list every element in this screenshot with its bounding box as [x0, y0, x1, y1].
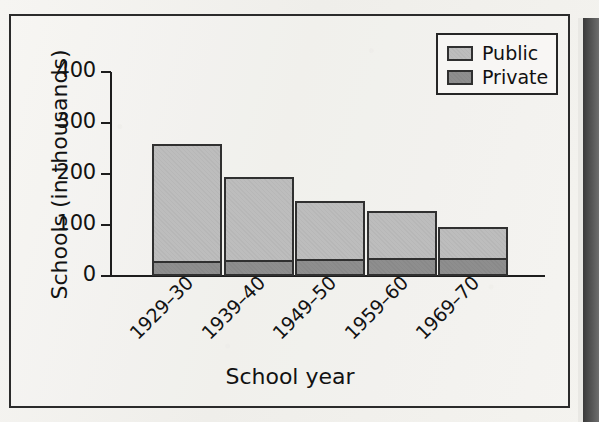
y-tick-mark [101, 275, 111, 277]
bar-1929–30 [152, 144, 222, 276]
y-tick-mark [101, 71, 111, 73]
public-swatch-icon [447, 46, 473, 61]
legend-label-private: Private [482, 68, 548, 87]
x-axis-title: School year [0, 364, 580, 389]
bar-segment-private [367, 258, 437, 276]
bar-chart: 0100200300400 1929–301939–401949–501959–… [0, 0, 599, 422]
bar-segment-public [367, 211, 437, 260]
legend-label-public: Public [482, 44, 538, 63]
bar-segment-private [438, 258, 508, 276]
x-tick-label: 1929–30 [125, 271, 197, 343]
bar-segment-public [224, 177, 294, 262]
private-swatch-icon [447, 70, 473, 85]
legend-item-private: Private [447, 65, 556, 89]
legend-item-public: Public [447, 41, 556, 65]
chart-legend: Public Private [436, 33, 558, 95]
y-axis-title: Schools (in thousands) [47, 50, 72, 300]
x-tick-label: 1939–40 [197, 271, 269, 343]
x-tick-label: 1969–70 [411, 271, 483, 343]
bar-1939–40 [224, 177, 294, 276]
bar-segment-public [295, 201, 365, 261]
bar-segment-public [152, 144, 222, 263]
x-tick-label: 1959–60 [340, 271, 412, 343]
bar-segment-public [438, 227, 508, 260]
bar-1969–70 [438, 227, 508, 276]
y-tick-mark [101, 122, 111, 124]
y-tick-mark [101, 173, 111, 175]
bar-1949–50 [295, 201, 365, 276]
bar-segment-private [295, 259, 365, 276]
bar-segment-private [152, 261, 222, 276]
bar-1959–60 [367, 211, 437, 276]
y-tick-mark [101, 224, 111, 226]
x-tick-label: 1949–50 [268, 271, 340, 343]
bar-segment-private [224, 260, 294, 276]
